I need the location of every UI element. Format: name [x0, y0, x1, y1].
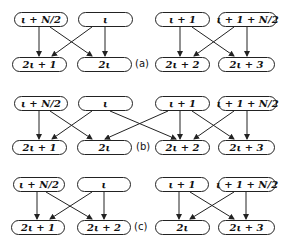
node-a-2i-plus-1: 2ι + 1	[12, 57, 67, 72]
node-b-2i-plus-1: 2ι + 1	[12, 140, 67, 155]
edge-b-i-2i2	[110, 111, 176, 139]
node-a-i-plus-1-plus-n-half: ι + 1 + N/2	[218, 12, 277, 27]
node-b-2i: 2ι	[77, 140, 132, 155]
node-c-i-plus-1-plus-n-half: ι + 1 + N/2	[218, 177, 276, 192]
section-label-b: (b)	[136, 141, 150, 152]
node-a-i-plus-1: ι + 1	[155, 12, 210, 27]
node-b-2i-plus-3: 2ι + 3	[218, 140, 275, 155]
node-c-2i: 2ι	[155, 220, 210, 235]
node-c-i-plus-1: ι + 1	[155, 177, 209, 192]
node-a-2i-plus-2: 2ι + 2	[155, 57, 210, 72]
node-b-i-plus-n-half: ι + N/2	[14, 96, 68, 111]
node-a-i-plus-n-half: ι + N/2	[14, 12, 68, 27]
node-b-i: ι	[78, 96, 133, 111]
section-label-c: (c)	[134, 221, 147, 232]
node-c-i-plus-n-half: ι + N/2	[13, 177, 65, 192]
node-a-2i: 2ι	[77, 57, 132, 72]
node-b-i-plus-1: ι + 1	[155, 96, 210, 111]
edges-layer	[0, 0, 283, 245]
section-label-a: (a)	[135, 58, 149, 69]
node-a-i: ι	[78, 12, 133, 27]
node-c-2i-plus-3: 2ι + 3	[218, 220, 275, 235]
node-b-2i-plus-2: 2ι + 2	[155, 140, 210, 155]
edge-b-i1-2i	[105, 111, 168, 139]
node-c-2i-plus-1: 2ι + 1	[11, 220, 65, 235]
node-c-i: ι	[77, 177, 131, 192]
node-b-i-plus-1-plus-n-half: ι + 1 + N/2	[218, 96, 277, 111]
node-c-2i-plus-2: 2ι + 2	[77, 220, 131, 235]
node-a-2i-plus-3: 2ι + 3	[218, 57, 275, 72]
